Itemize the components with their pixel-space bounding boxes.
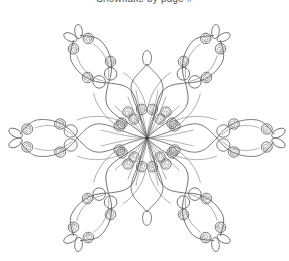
arm-upper-left: [52, 15, 165, 150]
arm-upper-right: [129, 15, 242, 150]
snowflake-center: [145, 136, 148, 139]
arm-right: [147, 116, 287, 159]
arm-lower-right: [129, 126, 242, 261]
snowflake-illustration: [0, 0, 289, 261]
arm-left: [7, 116, 147, 159]
arm-lower-left: [52, 126, 165, 261]
